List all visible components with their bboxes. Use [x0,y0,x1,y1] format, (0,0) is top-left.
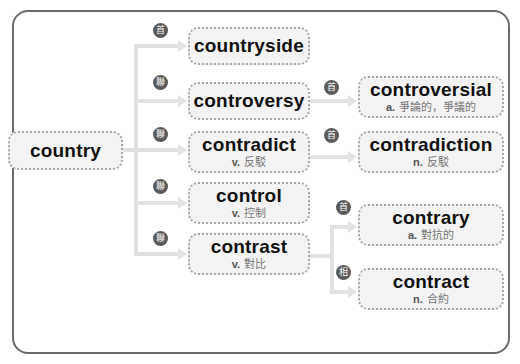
arrow-controversial [348,95,357,107]
connector-contract [330,290,350,294]
arrow-countryside [178,40,187,52]
connector-control [134,201,180,205]
badge-prefix-icon: 首 [153,23,168,38]
badge-prefix-icon: 首 [336,200,351,215]
badge-link-icon: 聯 [153,231,168,246]
connector-contrary [330,225,350,229]
node-definition: v.控制 [232,207,266,220]
node-controversy: controversy [188,82,310,120]
node-definition: v.對比 [232,258,266,271]
badge-link-icon: 聯 [153,75,168,90]
node-contrary: contrary a.對抗的 [358,204,504,246]
node-definition: n.合約 [413,293,449,306]
node-country: country [8,131,123,170]
badge-similar-icon: 相 [336,265,351,280]
badge-prefix-icon: 首 [324,80,339,95]
node-word: contract [393,272,470,292]
node-contrast: contrast v.對比 [188,233,310,275]
node-word: controversy [194,91,305,111]
connector-contradict [134,148,180,152]
node-definition: v.反駁 [232,156,266,169]
node-word: control [216,186,282,206]
badge-link-icon: 聯 [153,127,168,142]
badge-link-icon: 聯 [153,179,168,194]
node-word: countryside [194,36,304,56]
arrow-controversy [178,95,187,107]
node-countryside: countryside [188,27,310,65]
connector-countryside [134,44,180,48]
node-control: control v.控制 [188,182,310,224]
connector-controversial [310,99,350,103]
arrow-contrast [178,248,187,260]
node-contradict: contradict v.反駁 [188,131,310,173]
node-word: contrary [392,208,470,228]
arrow-contrary [348,221,357,233]
node-word: controversial [370,80,492,100]
node-definition: a.對抗的 [408,229,454,242]
connector-contrast [134,252,180,256]
connector-contrast-trunk [330,225,334,293]
arrow-contradict [178,144,187,156]
arrow-contradiction [348,151,357,163]
arrow-contract [348,286,357,298]
badge-prefix-icon: 首 [324,128,339,143]
node-word: country [30,141,101,161]
node-definition: a.爭論的，爭議的 [386,101,476,114]
connector-controversy [134,99,180,103]
node-contradiction: contradiction n.反駁 [358,131,504,173]
node-controversial: controversial a.爭論的，爭議的 [358,76,504,118]
node-word: contrast [211,237,288,257]
node-contract: contract n.合約 [358,268,504,310]
node-word: contradict [202,135,296,155]
connector-contrast-out [310,254,332,258]
arrow-control [178,197,187,209]
connector-contradiction [310,155,350,159]
node-word: contradiction [370,135,493,155]
node-definition: n.反駁 [413,156,449,169]
